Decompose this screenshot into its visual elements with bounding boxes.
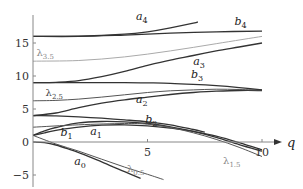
curve-a3 [33,43,262,83]
curve-label-a-2: a2 [136,93,148,108]
x-axis-label: q [287,135,295,150]
curve-label-a-1: a1 [90,125,102,140]
curve-a4 [33,22,198,37]
curve-label-b-4: b4 [235,15,247,30]
y-tick-label: −5 [13,169,29,182]
y-tick-label: 0 [22,136,29,149]
curve-label-a-4: a4 [136,10,148,25]
mathieu-characteristic-chart: q −5051015 510 a4b4λ3.5a3b3λ2.5a2b2b1a1a… [0,0,303,189]
y-tick-label: 15 [15,37,29,50]
x-tick-label: 5 [144,146,151,159]
curve-labels-layer: a4b4λ3.5a3b3λ2.5a2b2b1a1a0λ0.5λ1.5 [36,10,246,177]
curve-label-a-0: a0 [74,155,86,170]
curve-label-lambda-1-5: λ1.5 [223,155,240,169]
x-tick-label: 10 [255,146,269,159]
curve-label-b-3: b3 [191,68,203,83]
curve-label-b-2: b2 [145,113,157,128]
y-tick-label: 5 [22,103,29,116]
curve-label-lambda-0-5: λ0.5 [127,163,144,177]
x-axis-arrow-icon [274,139,282,145]
curve-a0 [33,142,141,178]
axes-layer: q −5051015 510 [13,15,296,187]
curve-label-lambda-2-5: λ2.5 [46,87,63,101]
curve-label-lambda-3-5: λ3.5 [36,47,53,61]
y-tick-label: 10 [15,70,29,83]
